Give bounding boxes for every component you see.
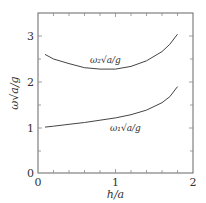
- omega1-curve: [45, 87, 178, 128]
- chart: 0 1 2 3 0 1 2 h/a ω√a/g ω₂√a/g ω₁√a/g: [0, 0, 206, 203]
- x-tick-2: 2: [190, 176, 197, 189]
- y-tick-1: 1: [27, 122, 34, 135]
- x-tick-0: 0: [35, 176, 42, 189]
- y-axis-label: ω√a/g: [8, 76, 21, 109]
- y-tick-3: 3: [27, 30, 34, 43]
- omega1-label: ω₁√a/g: [110, 123, 141, 133]
- y-tick-0: 0: [27, 167, 34, 180]
- plot-frame: [38, 13, 193, 173]
- y-tick-2: 2: [27, 76, 34, 89]
- x-axis-label: h/a: [107, 188, 124, 201]
- axis-ticks: [38, 13, 193, 173]
- omega2-label: ω₂√a/g: [90, 55, 121, 65]
